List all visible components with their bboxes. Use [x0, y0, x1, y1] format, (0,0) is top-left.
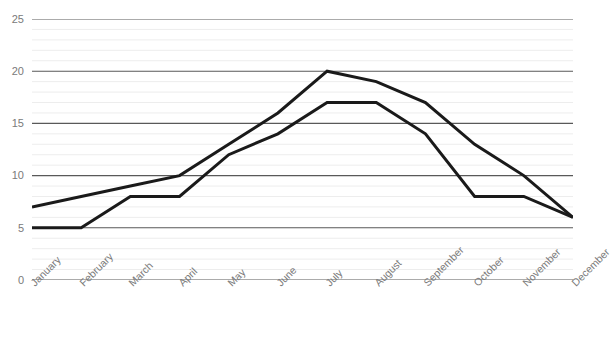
- y-axis: 25 20 15 10 5 0: [0, 0, 32, 347]
- x-axis: JanuaryFebruaryMarchAprilMayJuneJulyAugu…: [32, 280, 573, 347]
- y-tick-label-20: 20: [12, 66, 24, 77]
- y-tick-label-10: 10: [12, 170, 24, 181]
- y-tick-label-5: 5: [18, 223, 24, 234]
- x-tick-label-december: December: [569, 246, 612, 289]
- y-tick-label-0: 0: [18, 275, 24, 286]
- y-tick-label-15: 15: [12, 118, 24, 129]
- y-tick-label-25: 25: [12, 14, 24, 25]
- chart-title-strip: [0, 0, 581, 13]
- major-gridlines: [32, 19, 573, 280]
- series-lines: [32, 71, 573, 228]
- plot-svg: [32, 19, 573, 280]
- minor-gridlines: [32, 29, 573, 269]
- plot-area: [32, 19, 573, 280]
